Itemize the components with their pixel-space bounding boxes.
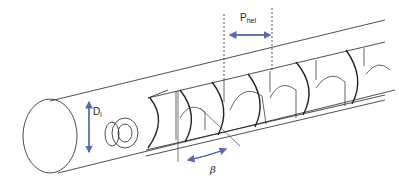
helix-tube-diagram: Di Phel β [0, 0, 399, 185]
pitch-label: Phel [240, 12, 256, 24]
tube-top-edge [50, 20, 385, 101]
angle-label: β [210, 164, 216, 175]
diameter-label: Di [93, 106, 102, 118]
diagram-drawing [0, 0, 399, 185]
tube-end-cap [23, 99, 77, 173]
